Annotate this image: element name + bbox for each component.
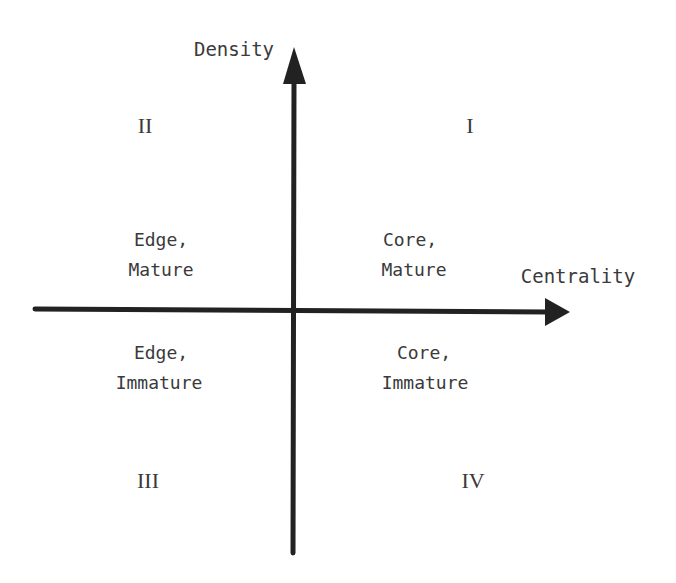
quadrant-i-numeral: I [466, 113, 473, 138]
y-axis-label: Density [194, 38, 274, 60]
quadrant-ii-label: Edge, Mature [128, 229, 193, 280]
quadrant-i-line1: Core, [383, 229, 437, 250]
quadrant-iii-label: Edge, Immature [116, 342, 203, 393]
quadrant-iv-label: Core, Immature [382, 342, 469, 393]
y-axis [283, 47, 306, 553]
x-axis-label: Centrality [521, 265, 635, 287]
x-axis [35, 298, 570, 326]
quadrant-iii-numeral: III [137, 468, 159, 493]
quadrant-ii-line2: Mature [128, 259, 193, 280]
quadrant-iv-line1: Core, [397, 342, 451, 363]
quadrant-i-line2: Mature [381, 259, 446, 280]
quadrant-iii-line2: Immature [116, 372, 203, 393]
quadrant-ii-line1: Edge, [134, 229, 188, 250]
quadrant-iii-line1: Edge, [134, 342, 188, 363]
y-axis-arrow-icon [283, 47, 306, 84]
quadrant-iv-numeral: IV [461, 468, 484, 493]
quadrant-ii-numeral: II [138, 113, 153, 138]
x-axis-arrow-icon [545, 298, 570, 326]
quadrant-iv-line2: Immature [382, 372, 469, 393]
quadrant-i-label: Core, Mature [381, 229, 446, 280]
strategic-quadrant-diagram: Density Centrality I II III IV Core, Mat… [0, 0, 676, 583]
